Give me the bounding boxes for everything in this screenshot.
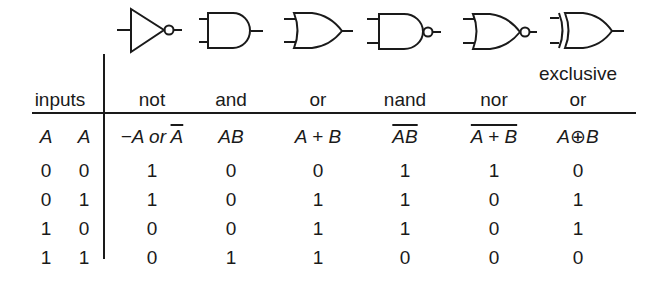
or-gate-icon	[284, 13, 353, 48]
cell-or: 1	[313, 218, 324, 240]
cell-not: 1	[147, 160, 158, 182]
cell-nor: 0	[489, 218, 500, 240]
column-header-nor: nor	[480, 89, 507, 111]
cell-and: 1	[226, 247, 237, 269]
column-header-or: or	[310, 89, 327, 111]
cell-and: 0	[226, 218, 237, 240]
and-gate-icon	[199, 13, 263, 48]
cell-nor: 0	[489, 189, 500, 211]
expression-nor: A + B	[471, 126, 517, 148]
input-b-label: A	[78, 126, 91, 148]
not-gate-icon	[117, 9, 182, 52]
cell-and: 0	[226, 189, 237, 211]
cell-nand: 1	[400, 160, 411, 182]
cell-xor: 1	[573, 218, 584, 240]
cell-b: 0	[79, 160, 90, 182]
table-header-rule	[32, 112, 636, 114]
cell-and: 0	[226, 160, 237, 182]
cell-nor: 1	[489, 160, 500, 182]
column-header-and: and	[215, 89, 247, 111]
cell-nand: 1	[400, 189, 411, 211]
expression-not: −A or A	[121, 126, 184, 148]
xor-gate-icon	[550, 13, 624, 48]
gate-symbols	[0, 0, 668, 60]
column-header-xor-line1: exclusive	[539, 63, 617, 85]
column-header-xor-line2: or	[570, 89, 587, 111]
cell-not: 0	[147, 218, 158, 240]
cell-or: 0	[313, 160, 324, 182]
cell-a: 1	[41, 247, 52, 269]
cell-xor: 0	[573, 247, 584, 269]
nor-gate-icon	[463, 14, 537, 49]
cell-b: 1	[79, 189, 90, 211]
inputs-header: inputs	[35, 89, 86, 111]
cell-a: 0	[41, 189, 52, 211]
cell-not: 1	[147, 189, 158, 211]
expression-not-bar: A	[171, 126, 184, 147]
expression-xor: A⊕B	[557, 126, 598, 148]
table-vertical-divider	[103, 54, 105, 259]
cell-xor: 1	[573, 189, 584, 211]
cell-a: 1	[41, 218, 52, 240]
input-a-label: A	[40, 126, 53, 148]
cell-b: 1	[79, 247, 90, 269]
cell-nand: 0	[400, 247, 411, 269]
cell-not: 0	[147, 247, 158, 269]
cell-nand: 1	[400, 218, 411, 240]
column-header-nand: nand	[384, 89, 426, 111]
nand-gate-icon	[367, 14, 441, 49]
expression-and: AB	[218, 126, 243, 148]
expression-not-prefix: −A or	[121, 126, 171, 147]
cell-or: 1	[313, 189, 324, 211]
cell-b: 0	[79, 218, 90, 240]
cell-a: 0	[41, 160, 52, 182]
cell-xor: 0	[573, 160, 584, 182]
column-header-not: not	[139, 89, 165, 111]
expression-nand: AB	[392, 126, 417, 148]
cell-nor: 0	[489, 247, 500, 269]
cell-or: 1	[313, 247, 324, 269]
expression-or: A + B	[295, 126, 341, 148]
